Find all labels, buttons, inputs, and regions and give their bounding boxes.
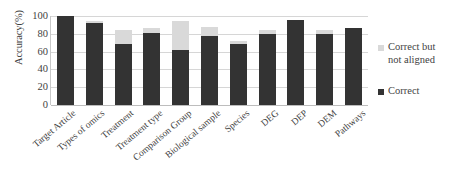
accuracy-stacked-bar-chart: Accuracy(%) 100806040200 Target ArticleT…: [0, 0, 459, 189]
chart-legend: Correct but not alignedCorrect: [378, 41, 458, 117]
bar-segment-correct-not-aligned: [201, 27, 218, 36]
bar-segment-correct: [115, 44, 132, 105]
y-axis-tick-20: 20: [22, 82, 48, 92]
bar-group: [316, 16, 333, 105]
bar-group: [230, 16, 247, 105]
plot-area: [50, 16, 368, 105]
y-axis-tick-60: 60: [22, 47, 48, 57]
bar-segment-correct: [172, 50, 189, 105]
bar-group: [143, 16, 160, 105]
x-axis-label-deg: DEG: [259, 108, 280, 128]
legend-label: Correct: [388, 85, 420, 98]
legend-swatch-icon: [378, 89, 384, 95]
legend-label: Correct but not aligned: [388, 41, 436, 66]
bar-segment-correct: [230, 44, 247, 105]
bar-group: [57, 16, 74, 105]
bar-group: [259, 16, 276, 105]
x-axis-label-pathways: Pathways: [333, 108, 367, 139]
bar-segment-correct-not-aligned: [172, 21, 189, 49]
bar-segment-correct: [259, 34, 276, 105]
x-axis-category-labels: Target ArticleTypes of omicsTreatmentTre…: [50, 105, 368, 189]
bar-segment-correct: [287, 20, 304, 105]
legend-item: Correct but not aligned: [378, 41, 458, 66]
bar-segment-correct: [57, 16, 74, 105]
y-axis-tick-0: 0: [22, 100, 48, 110]
y-axis-tick-labels: 100806040200: [22, 16, 48, 105]
x-axis-label-dep: DEP: [289, 108, 309, 127]
bar-group: [345, 16, 362, 105]
bars-layer: [51, 16, 368, 105]
bar-segment-correct: [316, 34, 333, 105]
legend-swatch-icon: [378, 45, 384, 51]
legend-item: Correct: [378, 85, 458, 98]
y-axis-tick-100: 100: [22, 11, 48, 21]
bar-group: [172, 16, 189, 105]
bar-segment-correct: [201, 36, 218, 105]
bar-group: [115, 16, 132, 105]
x-axis-label-dem: DEM: [315, 108, 338, 129]
bar-group: [86, 16, 103, 105]
bar-segment-correct: [86, 23, 103, 105]
bar-segment-correct-not-aligned: [115, 30, 132, 44]
bar-group: [201, 16, 218, 105]
bar-segment-correct: [345, 28, 362, 105]
x-axis-label-species: Species: [223, 108, 252, 134]
y-axis-tick-80: 80: [22, 29, 48, 39]
y-axis-tick-40: 40: [22, 64, 48, 74]
bar-segment-correct: [143, 33, 160, 105]
bar-group: [287, 16, 304, 105]
